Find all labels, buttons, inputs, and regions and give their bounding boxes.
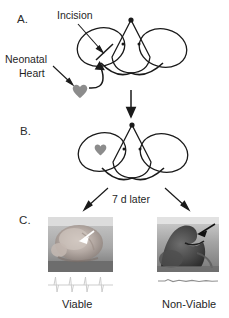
arrow-neonatal-icon [53,66,73,85]
incision-slash [96,44,113,60]
arrow-incision-icon [78,24,103,53]
photo-nonviable-graft [157,217,219,272]
ecg-active-trace [48,274,113,296]
interior-dot-b-right [139,148,142,151]
ecg-flat-trace [157,274,219,288]
figure-container: A. Incision Neonatal Heart B. 7 d later … [0,0,229,318]
caption-nonviable: Non-Viable [162,299,216,310]
panel-a-label: A. [17,14,28,26]
arrow-right-outcome-icon [165,188,189,210]
panel-a-schematic [73,20,191,75]
incision-label: Incision [57,10,93,21]
panel-b-schematic [74,125,192,180]
arrow-down-icon [127,90,135,117]
panel-b-label: B. [20,126,31,138]
photo-viable-graft [48,217,113,272]
arrow-photo-left-icon [48,217,113,272]
panel-c-label: C. [19,215,31,227]
apex-node-a [128,17,133,22]
arrow-curved-graft-icon [89,63,104,89]
caption-viable: Viable [62,299,92,310]
neonatal-heart-label-line2: Heart [19,68,45,79]
arrow-photo-right-icon [157,217,219,272]
interior-dot-a-left [122,43,125,46]
apex-node-b [129,122,134,127]
seven-days-later-label: 7 d later [112,194,150,205]
arrow-left-outcome-icon [84,188,108,210]
neonatal-heart-label-line1: Neonatal [5,54,47,65]
heart-icon-donor [72,84,88,99]
heart-icon-grafted [94,144,107,156]
interior-dot-b-left [123,148,126,151]
interior-dot-a-right [138,43,141,46]
